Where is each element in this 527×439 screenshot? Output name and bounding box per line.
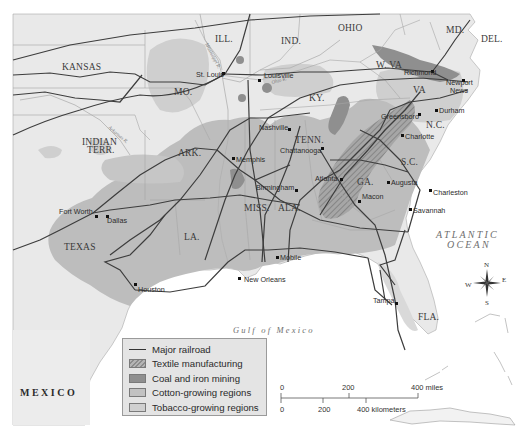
map-legend: Major railroad Textile manufacturing Coa… [122, 338, 267, 416]
label-del: DEL. [481, 34, 503, 44]
label-fort-worth: Fort Worth [59, 207, 93, 216]
compass-s: S [485, 299, 489, 307]
label-savannah: Savannah [413, 206, 445, 215]
cotton-swatch-icon [129, 388, 146, 397]
label-ark: ARK. [178, 148, 201, 158]
label-la: LA. [184, 232, 200, 242]
legend-label: Coal and iron mining [152, 373, 240, 384]
label-ind: IND. [281, 36, 301, 46]
textile-swatch-icon [129, 359, 146, 368]
legend-label: Cotton-growing regions [152, 387, 251, 398]
scale-km-mid: 200 [318, 405, 331, 414]
label-houston: Houston [138, 285, 165, 294]
label-st-louis: St. Louis [196, 70, 224, 79]
legend-item-tobacco: Tobacco-growing regions [129, 400, 266, 415]
scale-miles-end: 400 miles [411, 383, 443, 392]
label-macon: Macon [362, 192, 384, 201]
label-tenn: TENN. [295, 135, 324, 145]
tobacco-swatch-icon [129, 403, 146, 412]
label-chattanooga: Chattanooga [280, 146, 321, 155]
legend-item-railroad: Major railroad [129, 342, 266, 357]
compass-n: N [484, 261, 489, 269]
label-augusta: Augusta [391, 178, 417, 187]
label-charleston: Charleston [433, 188, 468, 197]
label-atlanta: Atlanta [315, 174, 337, 183]
label-va: VA [413, 85, 426, 95]
scale-km-end: 400 kilometers [357, 405, 406, 414]
label-charlotte: Charlotte [405, 132, 434, 141]
label-kansas: KANSAS [62, 62, 101, 72]
label-miss: MISS. [244, 203, 270, 213]
scale-bar: 0 200 400 miles 0 200 400 kilometers [280, 383, 430, 423]
legend-item-textile: Textile manufacturing [129, 357, 266, 372]
label-texas: TEXAS [64, 242, 96, 252]
label-dallas: Dallas [107, 216, 127, 225]
legend-item-cotton: Cotton-growing regions [129, 386, 266, 401]
label-wva: W. VA [376, 60, 402, 70]
railroad-line-icon [129, 349, 146, 350]
mexico-land [13, 330, 90, 425]
label-ala: ALA. [278, 203, 301, 213]
label-ga: GA. [357, 177, 374, 187]
legend-label: Textile manufacturing [152, 358, 243, 369]
label-memphis: Memphis [236, 155, 266, 164]
label-durham: Durham [439, 106, 465, 115]
label-new-orleans: New Orleans [244, 275, 286, 284]
label-greensboro: Greensboro [381, 112, 419, 121]
coal-swatch-icon [129, 374, 146, 383]
scale-miles-mid: 200 [342, 383, 355, 392]
label-ky: KY. [309, 93, 324, 103]
label-mexico: MEXICO [20, 387, 77, 398]
label-fla: FLA. [418, 312, 439, 322]
label-richmond: Richmond [404, 68, 436, 77]
scale-ruler [280, 392, 430, 404]
label-nashville: Nashville [259, 123, 288, 132]
label-ohio: OHIO [338, 23, 363, 33]
label-newport-news-2: News [450, 86, 468, 95]
label-mobile: Mobile [280, 253, 301, 262]
label-indian-terr-2: TERR. [87, 145, 115, 155]
scale-miles-zero: 0 [280, 383, 284, 392]
label-atlantic-2: OCEAN [447, 239, 491, 250]
compass-w: W [465, 281, 472, 289]
label-birmingham: Birmingham [256, 183, 294, 192]
label-nc: N.C. [426, 120, 445, 130]
label-ill: ILL. [215, 34, 233, 44]
label-gulf-of-mexico: Gulf of Mexico [233, 325, 315, 335]
cotton-region-ark [101, 154, 184, 183]
legend-item-coal: Coal and iron mining [129, 371, 266, 386]
label-md: MD. [446, 25, 464, 35]
label-mo: MO. [174, 87, 192, 97]
label-tampa: Tampa [373, 296, 395, 305]
scale-km-zero: 0 [280, 405, 284, 414]
legend-label: Major railroad [152, 344, 211, 355]
legend-label: Tobacco-growing regions [152, 402, 259, 413]
label-sc: S.C. [401, 157, 418, 167]
compass-e: E [502, 276, 506, 284]
